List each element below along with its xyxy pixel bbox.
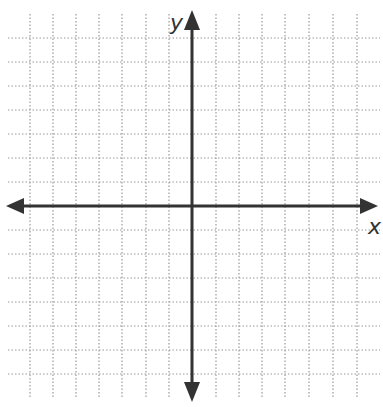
x-axis-right-arrow-icon <box>360 198 378 214</box>
x-axis-left-arrow-icon <box>6 198 24 214</box>
coordinate-plane: x y <box>0 0 383 407</box>
y-axis-label: y <box>169 10 184 35</box>
y-axis-up-arrow-icon <box>184 10 200 30</box>
y-axis-down-arrow-icon <box>184 382 200 402</box>
x-axis-label: x <box>367 214 382 239</box>
axes <box>6 10 378 402</box>
